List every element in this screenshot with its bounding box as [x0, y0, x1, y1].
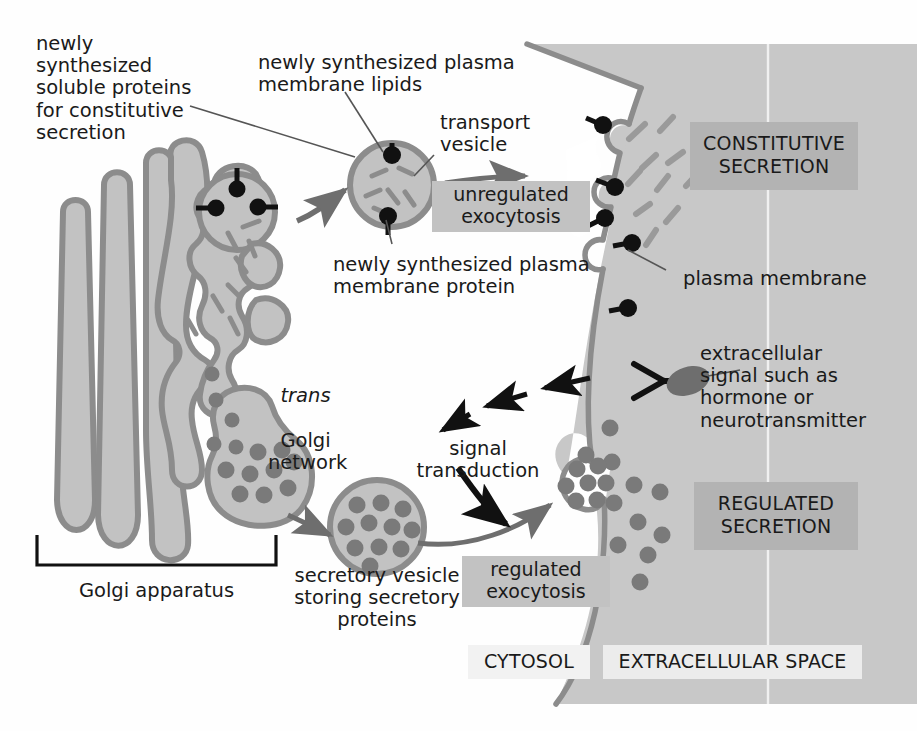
transport-vesicle: [350, 143, 434, 235]
label-golgi-network-rest: Golgi network: [268, 429, 347, 474]
label-trans-golgi-network: trans Golgi network: [268, 363, 347, 474]
label-regulated-secretion: REGULATED SECRETION: [694, 482, 858, 550]
label-extracellular-signal: extracellular signal such as hormone or …: [700, 343, 866, 432]
label-golgi-apparatus: Golgi apparatus: [37, 580, 276, 602]
label-trans-italic: trans: [280, 384, 330, 407]
secretory-vesicle: [330, 480, 424, 575]
label-soluble-proteins: newly synthesized soluble proteins for c…: [36, 33, 191, 144]
label-transport-vesicle: transport vesicle: [440, 112, 530, 156]
label-plasma-membrane: plasma membrane: [683, 268, 867, 290]
label-cytosol: CYTOSOL: [468, 645, 590, 679]
label-regulated-exocytosis: regulated exocytosis: [462, 556, 610, 607]
golgi-apparatus: [57, 140, 312, 560]
diagram-canvas: newly synthesized soluble proteins for c…: [0, 0, 917, 731]
label-secretory-vesicle: secretory vesicle storing secretory prot…: [274, 565, 480, 632]
signal-dashed-arrows: [443, 378, 590, 430]
label-constitutive-secretion: CONSTITUTIVE SECRETION: [690, 122, 858, 190]
label-membrane-protein: newly synthesized plasma membrane protei…: [333, 254, 590, 298]
label-signal-transduction: signal transduction: [414, 438, 542, 482]
label-membrane-lipids: newly synthesized plasma membrane lipids: [258, 52, 515, 96]
label-extracellular-space: EXTRACELLULAR SPACE: [603, 645, 862, 679]
label-unregulated-exocytosis: unregulated exocytosis: [432, 181, 590, 232]
